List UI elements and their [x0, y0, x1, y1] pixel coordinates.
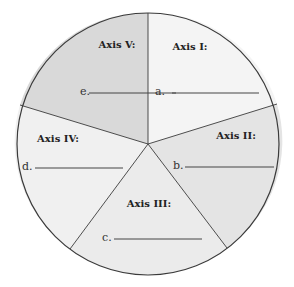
axis-2-title: Axis II: [215, 130, 256, 141]
cropped-header-strip [0, 0, 294, 5]
five-axis-pie-diagram: Axis V: e. Axis I: a. Axis II: b. Axis I… [0, 0, 294, 287]
axis-2-letter: b. [173, 159, 184, 172]
axis-3-title: Axis III: [126, 198, 171, 209]
axis-1-title: Axis I: [172, 41, 208, 52]
axis-4-letter: d. [22, 160, 33, 173]
axis-1-letter: a. [155, 85, 165, 98]
axis-5-title: Axis V: [97, 39, 135, 50]
axis-4-title: Axis IV: [36, 133, 79, 144]
axis-5-letter: e. [80, 85, 90, 98]
axis-3-letter: c. [102, 231, 112, 244]
